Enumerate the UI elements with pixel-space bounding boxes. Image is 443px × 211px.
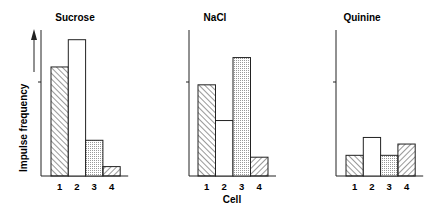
- panel-title: NaCl: [204, 12, 227, 23]
- x-tick-label: 1: [204, 181, 210, 192]
- panel-sucrose: Sucrose1234: [38, 12, 128, 192]
- x-tick-label: 4: [109, 181, 115, 192]
- bar-cell-4: [398, 144, 415, 176]
- x-axis-label: Cell: [223, 194, 242, 205]
- panel-quinine: Quinine1234: [333, 12, 423, 192]
- x-tick-label: 1: [57, 181, 63, 192]
- bar-cell-3: [86, 140, 103, 176]
- y-axis-label: Impulse frequency: [18, 83, 29, 172]
- bar-cell-3: [381, 155, 398, 176]
- bar-cell-1: [51, 67, 68, 176]
- x-tick-label: 2: [74, 181, 79, 192]
- panel-nacl: NaCl1234: [186, 12, 276, 192]
- x-tick-label: 1: [352, 181, 358, 192]
- arrowhead-icon: [31, 29, 37, 40]
- x-tick-label: 4: [404, 181, 410, 192]
- x-tick-label: 2: [369, 181, 374, 192]
- panel-title: Quinine: [343, 12, 381, 23]
- x-tick-label: 3: [92, 181, 97, 192]
- bar-cell-2: [363, 137, 380, 176]
- bar-cell-2: [216, 121, 234, 176]
- x-tick-label: 4: [257, 181, 263, 192]
- x-tick-label: 3: [387, 181, 392, 192]
- bar-cell-4: [251, 157, 269, 176]
- bar-cell-2: [68, 40, 85, 176]
- bar-cell-3: [233, 58, 251, 176]
- bar-cell-1: [346, 155, 363, 176]
- bar-cell-1: [198, 85, 216, 176]
- x-tick-label: 3: [239, 181, 244, 192]
- x-tick-label: 2: [222, 181, 227, 192]
- y-axis-label-group: Impulse frequency: [18, 29, 37, 172]
- panel-title: Sucrose: [55, 12, 95, 23]
- taste-response-chart: Sucrose1234NaCl1234Quinine1234 Impulse f…: [0, 0, 443, 211]
- bar-cell-4: [103, 167, 120, 176]
